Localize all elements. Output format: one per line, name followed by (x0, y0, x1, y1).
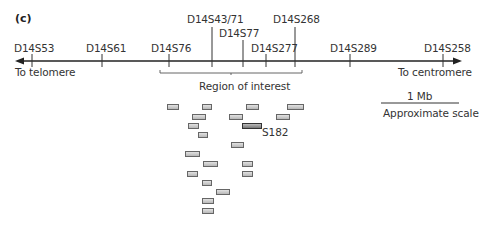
clone-bar (231, 142, 244, 148)
clone-bar (242, 161, 253, 167)
clone-bar (202, 180, 212, 186)
marker-label: D14S77 (219, 27, 259, 39)
clone-bar (202, 198, 214, 204)
clone-bar (188, 123, 199, 129)
region-bracket (160, 70, 302, 75)
centromere-label: To centromere (398, 66, 472, 78)
clone-bar (185, 151, 200, 157)
clone-bar (202, 208, 214, 214)
clone-bar (242, 123, 262, 129)
clone-bar (287, 104, 304, 110)
arrow-right-icon (453, 58, 462, 65)
arrow-left-icon (15, 58, 24, 65)
scale-caption: Approximate scale (383, 107, 479, 119)
scale-bar-label: 1 Mb (407, 90, 432, 102)
clone-bar (198, 132, 208, 138)
marker-label: D14S289 (330, 42, 377, 54)
marker-label: D14S43/71 (187, 13, 244, 25)
clone-bar (167, 104, 179, 110)
clone-bar (202, 104, 212, 110)
clone-bar (242, 171, 253, 177)
clone-label: S182 (262, 126, 288, 138)
clone-bar (246, 104, 259, 110)
clone-bar (192, 114, 206, 120)
marker-label: D14S76 (151, 42, 191, 54)
clone-bar (229, 114, 243, 120)
clone-bar (216, 189, 230, 195)
clone-bar (276, 114, 290, 120)
region-of-interest-label: Region of interest (199, 80, 290, 92)
marker-label: D14S61 (86, 42, 126, 54)
clone-bar (203, 161, 218, 167)
telomere-label: To telomere (15, 66, 75, 78)
marker-label: D14S258 (424, 42, 471, 54)
clone-bar (187, 171, 198, 177)
marker-label: D14S277 (251, 42, 298, 54)
marker-label: D14S53 (14, 42, 54, 54)
marker-label: D14S268 (273, 13, 320, 25)
